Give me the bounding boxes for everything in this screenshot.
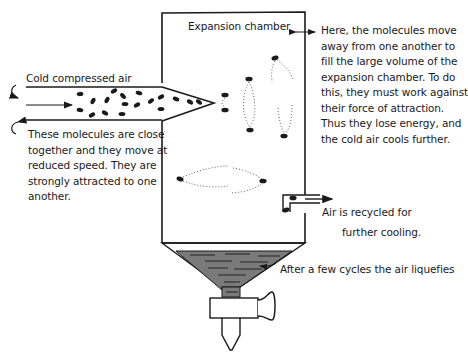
caption-line: These molecules are close bbox=[28, 127, 167, 143]
recycled-label-line1: Air is recycled for bbox=[322, 205, 412, 221]
recycled-label-line2: further cooling. bbox=[342, 225, 421, 241]
molecules-close-caption: These molecules are close together and t… bbox=[28, 127, 167, 205]
cold-compressed-air-label: Cold compressed air bbox=[26, 71, 131, 87]
explanation-line: away from one another to bbox=[321, 39, 468, 55]
liquefies-label: After a few cycles the air liquefies bbox=[280, 262, 455, 278]
expanding-molecules bbox=[176, 55, 297, 214]
explanation-line: the cold air cools further. bbox=[321, 132, 468, 148]
drain-valve[interactable] bbox=[210, 292, 275, 350]
caption-line: strongly attracted to one bbox=[28, 174, 167, 190]
caption-line: reduced speed. They are bbox=[28, 158, 167, 174]
explanation-line: fill the large volume of the bbox=[321, 54, 468, 70]
caption-line: another. bbox=[28, 189, 167, 205]
caption-line: together and they move at bbox=[28, 143, 167, 159]
explanation-line: their force of attraction. bbox=[321, 101, 468, 117]
explanation-line: expansion chamber. To do bbox=[321, 70, 468, 86]
expansion-explanation: Here, the molecules move away from one a… bbox=[321, 23, 468, 147]
explanation-line: Thus they lose energy, and bbox=[321, 116, 468, 132]
pointer-arrows bbox=[260, 32, 315, 266]
expansion-chamber-label: Expansion chamber bbox=[188, 19, 290, 35]
explanation-line: Here, the molecules move bbox=[321, 23, 468, 39]
inlet-pipe bbox=[26, 87, 214, 121]
explanation-line: this, they must work against bbox=[321, 85, 468, 101]
